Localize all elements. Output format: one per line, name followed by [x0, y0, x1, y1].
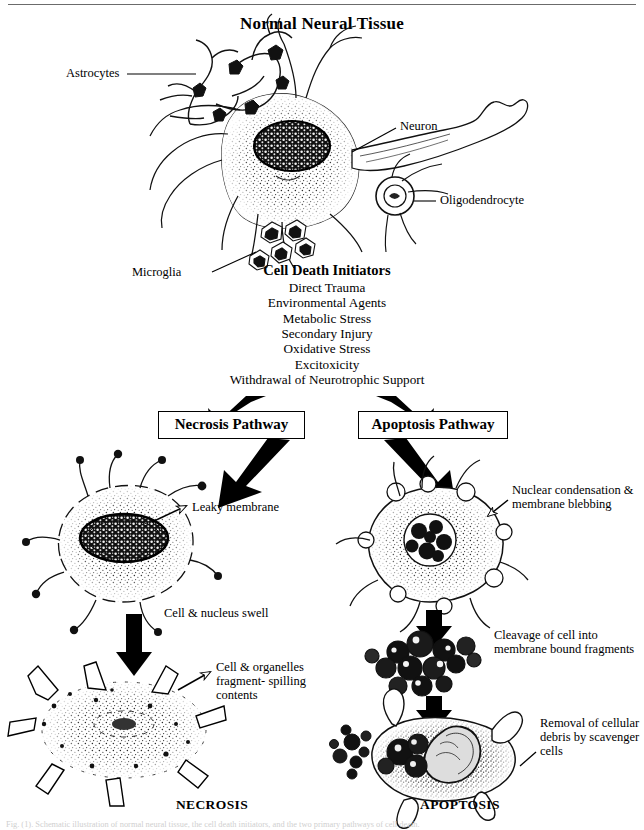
initiator-item-6: Excitoxicity: [222, 357, 432, 372]
leaky-membrane-outline: [58, 486, 193, 603]
annotation-leaky-membrane: Leaky membrane: [192, 500, 279, 514]
apoptosis-outcome-label: APOPTOSIS: [400, 797, 520, 813]
fragment-spilling-callout-arrow: [178, 672, 210, 690]
nuclear-condensation-callout-arrow: [488, 500, 508, 516]
leaky-membrane-callout-arrow: [152, 506, 186, 522]
figure-caption: Fig. (1). Schematic illustration of norm…: [6, 820, 638, 830]
page-title: Normal Neural Tissue: [0, 14, 644, 34]
top-divider-rule: [8, 4, 636, 5]
annotation-cell-nucleus-swell: Cell & nucleus swell: [164, 606, 269, 620]
oligodendrocyte-cell: [376, 154, 448, 252]
neuron-processes: [150, 18, 362, 268]
label-microglia: Microglia: [132, 265, 181, 279]
normal-tissue-illustration: [127, 14, 528, 272]
initiator-item-5: Oxidative Stress: [222, 341, 432, 356]
necrosis-cell-lysed: [8, 662, 226, 806]
necrosis-pathway-box: Necrosis Pathway: [158, 411, 305, 439]
label-astrocytes: Astrocytes: [66, 66, 119, 80]
label-oligodendrocyte: Oligodendrocyte: [440, 193, 524, 207]
condensed-nucleus: [404, 514, 456, 566]
initiator-item-2: Environmental Agents: [222, 295, 432, 310]
initiators-heading: Cell Death Initiators: [222, 262, 432, 279]
apoptosis-pathway-box: Apoptosis Pathway: [358, 411, 508, 439]
label-neuron: Neuron: [400, 119, 438, 133]
figure-page: Normal Neural Tissue: [0, 0, 644, 830]
diagram-artwork: [0, 0, 644, 830]
neuron-soma: [222, 94, 359, 229]
label-leader-lines: [127, 74, 436, 272]
apoptosis-progress-arrow-2: [416, 696, 452, 732]
apoptotic-bodies-cluster: [365, 631, 481, 696]
initiator-item-7: Withdrawal of Neurotrophic Support: [180, 372, 474, 387]
annotation-cleavage: Cleavage of cell into membrane bound fra…: [494, 628, 644, 656]
cell-death-initiators-block: Cell Death Initiators Direct Trauma Envi…: [222, 262, 432, 387]
pathway-entry-arrows: [218, 438, 456, 508]
necrosis-progress-arrow: [116, 614, 152, 676]
necrosis-outcome-label: NECROSIS: [152, 797, 272, 813]
apoptosis-cell-blebbing: [336, 456, 528, 632]
removal-callout-line: [520, 752, 536, 766]
annotation-removal: Removal of cellular debris by scavenger …: [540, 716, 640, 758]
initiator-item-3: Metabolic Stress: [222, 311, 432, 326]
apoptosis-progress-arrow-1: [416, 610, 452, 648]
annotation-fragment-spilling: Cell & organelles fragment- spilling con…: [216, 660, 320, 702]
initiator-item-1: Direct Trauma: [222, 280, 432, 295]
initiator-item-4: Secondary Injury: [222, 326, 432, 341]
annotation-nuclear-condensation: Nuclear condensation & membrane blebbing: [512, 483, 640, 511]
neuron-axon: [352, 100, 528, 171]
